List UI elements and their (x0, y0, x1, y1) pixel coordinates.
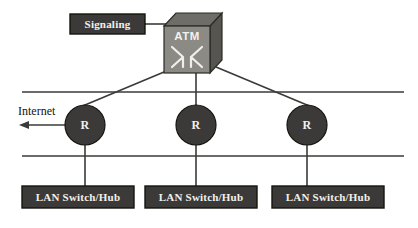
internet-label: Internet (18, 104, 55, 119)
internet-arrow-head (19, 121, 29, 129)
atm-to-router-right-link (216, 67, 319, 110)
atm-cube-front-face (164, 26, 210, 73)
lan-switch-box-3[interactable] (272, 186, 384, 208)
diagram-canvas (0, 0, 418, 228)
lan-switch-box-2[interactable] (145, 186, 257, 208)
router-node-right[interactable] (287, 105, 327, 145)
router-node-middle[interactable] (176, 105, 216, 145)
lan-switch-box-1[interactable] (22, 186, 134, 208)
network-diagram: Signaling ATM R R R LAN Switch/Hub LAN S… (0, 0, 418, 228)
signaling-box[interactable] (70, 14, 145, 34)
router-node-left[interactable] (65, 105, 105, 145)
atm-to-router-left-link (73, 67, 176, 110)
